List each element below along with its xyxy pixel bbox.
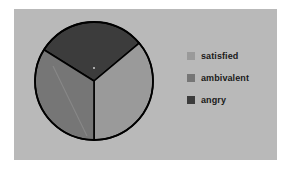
scan-artifact-speck [93,67,95,69]
legend-swatch-ambivalent [187,74,195,82]
legend-swatch-satisfied [187,52,195,60]
chart-legend: satisfied ambivalent angry [187,45,271,111]
pie-chart [33,20,155,142]
legend-item-ambivalent[interactable]: ambivalent [187,67,271,89]
pie-chart-figure: satisfied ambivalent angry [0,0,291,170]
legend-swatch-angry [187,96,195,104]
chart-panel: satisfied ambivalent angry [14,9,277,160]
legend-label-angry: angry [201,95,226,105]
legend-item-angry[interactable]: angry [187,89,271,111]
legend-label-satisfied: satisfied [201,51,238,61]
legend-item-satisfied[interactable]: satisfied [187,45,271,67]
pie-svg [33,20,155,142]
legend-label-ambivalent: ambivalent [201,73,249,83]
